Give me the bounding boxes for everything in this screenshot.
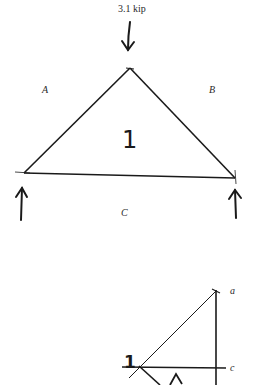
panel-label: 1 bbox=[122, 128, 137, 152]
space-label-b: B bbox=[209, 85, 215, 95]
point-label-c: c bbox=[230, 363, 234, 373]
space-label-c: C bbox=[121, 208, 128, 218]
reaction-arrow-right-icon bbox=[229, 190, 241, 218]
diagram-canvas bbox=[0, 0, 266, 385]
node-label: 1 bbox=[124, 354, 136, 371]
reaction-arrow-left-icon bbox=[16, 188, 27, 220]
space-label-a: A bbox=[42, 85, 48, 95]
load-arrow-down-icon bbox=[122, 22, 134, 50]
load-label: 3.1 kip bbox=[118, 4, 146, 14]
point-label-a: a bbox=[230, 286, 235, 296]
force-polygon bbox=[122, 289, 226, 385]
